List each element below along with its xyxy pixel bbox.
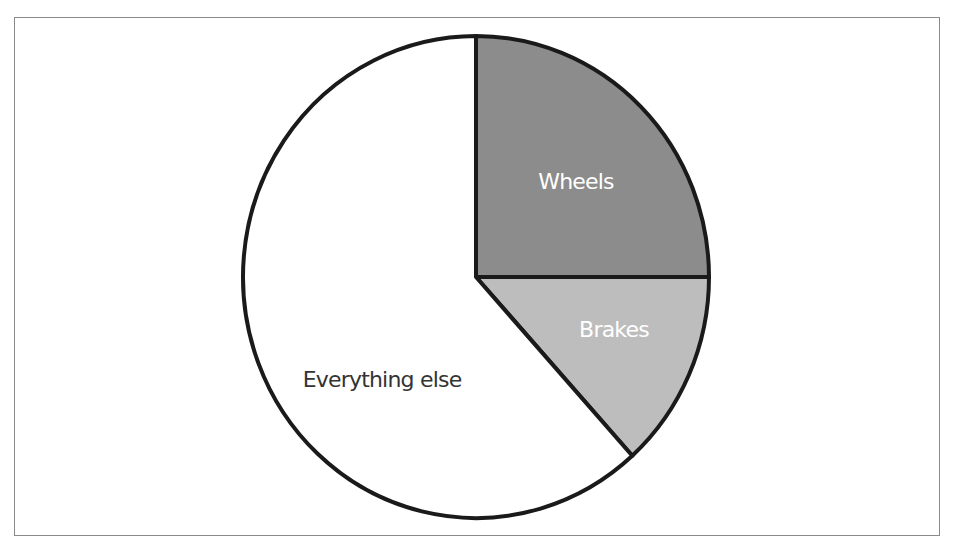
pie-slice-wheels [476, 36, 709, 277]
slice-label-brakes: Brakes [579, 317, 649, 342]
slice-label-everything-else: Everything else [303, 367, 462, 392]
pie-chart: Wheels Brakes Everything else [0, 0, 959, 543]
pie-slices [243, 36, 709, 518]
slice-label-wheels: Wheels [538, 169, 614, 194]
